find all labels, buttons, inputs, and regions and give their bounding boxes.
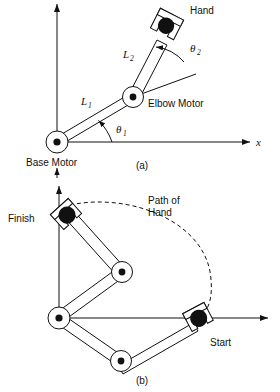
theta1-label: θ (116, 123, 122, 135)
path-of-hand-label-line1: Path of (148, 195, 180, 206)
joint-hub-icon (118, 358, 125, 365)
finish-label: Finish (8, 213, 35, 224)
link1-label: L (80, 95, 87, 107)
base-joint (46, 131, 68, 153)
joint-hub-icon (130, 94, 137, 101)
base-motor-label: Base Motor (26, 157, 78, 168)
link1-subscript: 1 (88, 101, 92, 110)
elbow-motor-label: Elbow Motor (148, 98, 204, 109)
theta2-subscript: 2 (197, 48, 201, 57)
link2-label: L (122, 48, 129, 60)
robot-arm-figure: x θ 1 (0, 0, 280, 392)
joint-hub-icon (53, 138, 60, 145)
joint-hub-icon (119, 269, 126, 276)
theta1-subscript: 1 (123, 129, 127, 138)
gripper-hand (150, 8, 183, 39)
elbow-joint (123, 87, 144, 108)
theta2-label: θ (190, 42, 196, 54)
panel-a: x θ 1 (26, 4, 261, 178)
joint-hub-icon (55, 314, 62, 321)
link2-subscript: 2 (130, 54, 134, 63)
figure-svg: x θ 1 (0, 0, 280, 392)
x-axis-label: x (255, 136, 261, 148)
panel-a-caption: (a) (136, 160, 148, 171)
base-joint-b (48, 307, 70, 329)
theta1-arc (99, 121, 113, 143)
panel-b-caption: (b) (136, 375, 148, 386)
path-of-hand-label-line2: Hand (148, 207, 172, 218)
elbow-joint-upper (112, 262, 133, 283)
elbow-joint-lower (111, 351, 132, 372)
start-label: Start (210, 337, 231, 348)
hand-label: Hand (190, 5, 214, 16)
panel-b: Finish Start Path of Hand (b) (8, 186, 268, 386)
